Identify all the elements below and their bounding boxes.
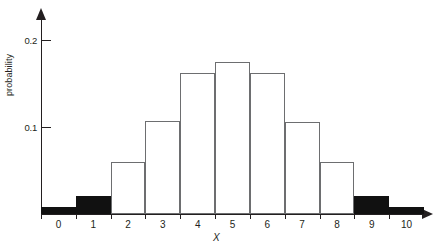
bar-4 [180,73,215,214]
bar-9 [354,196,389,214]
probability-histogram-figure: probability 0.10.2 012345678910 X [0,0,444,251]
x-tick-label-8: 8 [334,219,340,230]
x-tick-2 [111,215,112,219]
x-tick-3 [145,215,146,219]
x-tick-label-6: 6 [265,219,271,230]
x-axis-line [41,214,424,215]
plot-area [41,18,424,214]
bar-7 [285,122,320,214]
y-axis-title: probability [4,54,14,96]
x-tick-4 [180,215,181,219]
bar-8 [320,162,355,214]
x-tick-7 [285,215,286,219]
x-tick-1 [76,215,77,219]
bar-2 [111,162,146,214]
x-tick-label-1: 1 [90,219,96,230]
x-tick-8 [320,215,321,219]
x-tick-label-5: 5 [230,219,236,230]
bar-10 [389,207,424,214]
x-tick-label-0: 0 [56,219,62,230]
bar-5 [215,62,250,214]
x-tick-label-10: 10 [401,219,412,230]
x-tick-10 [389,215,390,219]
bar-1 [76,196,111,214]
x-tick-6 [250,215,251,219]
x-tick-0 [41,215,42,219]
bar-6 [250,73,285,214]
y-tick-label-0.1: 0.1 [24,122,37,133]
x-tick-5 [215,215,216,219]
bar-3 [145,121,180,214]
x-tick-label-7: 7 [299,219,305,230]
x-tick-label-3: 3 [160,219,166,230]
x-tick-label-2: 2 [125,219,131,230]
x-tick-label-9: 9 [369,219,375,230]
x-axis-title: X [213,232,220,243]
x-tick-label-4: 4 [195,219,201,230]
x-tick-9 [354,215,355,219]
y-tick-label-0.2: 0.2 [24,35,37,46]
bar-0 [41,207,76,214]
